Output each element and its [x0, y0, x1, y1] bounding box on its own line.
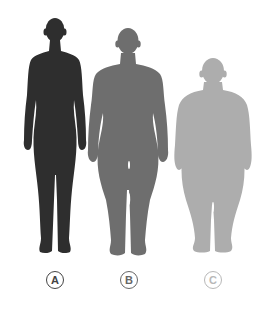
figure-label-a: A [46, 271, 64, 289]
figure-label-b-text: B [125, 275, 133, 286]
figure-label-a-text: A [51, 275, 59, 286]
figure-label-c-text: C [209, 275, 217, 286]
figure-label-c: C [204, 271, 222, 289]
silhouette-a [24, 18, 87, 253]
silhouette-c [174, 58, 251, 253]
figure-label-b: B [120, 271, 138, 289]
silhouette-b [88, 28, 168, 255]
body-silhouettes [0, 0, 266, 310]
